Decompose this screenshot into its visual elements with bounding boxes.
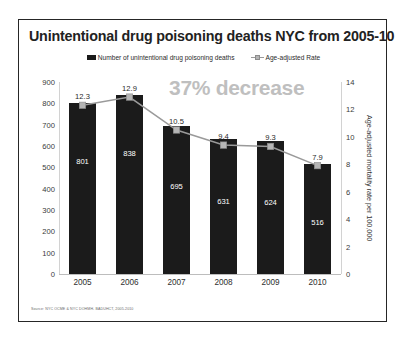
- rate-marker: [220, 142, 226, 148]
- x-tick-label: 2009: [261, 278, 279, 287]
- rate-marker: [79, 102, 85, 108]
- y-tick-left: 600: [21, 142, 55, 151]
- y-axis-right-title: Age-adjusted mortality rate per 100,000: [363, 82, 375, 274]
- rate-marker: [126, 94, 132, 100]
- y-tick-left: 800: [21, 99, 55, 108]
- chart-legend: Number of unintentional drug poisoning d…: [19, 54, 388, 61]
- rate-marker: [173, 127, 179, 133]
- y-axis-right-line: [341, 82, 342, 274]
- source-note: Source: NYC OCME & NYC DOHMH- BADUHCT, 2…: [31, 307, 133, 311]
- legend-label-rate: Age-adjusted Rate: [266, 54, 321, 61]
- x-tick-label: 2010: [308, 278, 326, 287]
- rate-line-series: [59, 82, 341, 274]
- rate-line: [83, 97, 318, 166]
- y-tick-left: 400: [21, 184, 55, 193]
- legend-item-rate[interactable]: Age-adjusted Rate: [251, 54, 321, 61]
- y-tick-left: 200: [21, 227, 55, 236]
- y-axis-left: 9008007006005004003002001000: [19, 82, 55, 274]
- rate-marker: [267, 143, 273, 149]
- x-tick-label: 2005: [73, 278, 91, 287]
- x-tick-label: 2008: [214, 278, 232, 287]
- y-tick-left: 300: [21, 206, 55, 215]
- chart-title: Unintentional drug poisoning deaths NYC …: [29, 28, 379, 44]
- rate-marker: [314, 162, 320, 168]
- legend-line-marker-icon: [251, 55, 264, 60]
- x-tick-label: 2007: [167, 278, 185, 287]
- legend-item-deaths[interactable]: Number of unintentional drug poisoning d…: [87, 54, 235, 61]
- decrease-annotation: 37% decrease: [169, 76, 304, 100]
- legend-label-deaths: Number of unintentional drug poisoning d…: [98, 54, 235, 61]
- chart-frame: Unintentional drug poisoning deaths NYC …: [18, 19, 387, 322]
- y-tick-left: 500: [21, 163, 55, 172]
- y-tick-left: 0: [21, 270, 55, 279]
- x-tick-label: 2006: [120, 278, 138, 287]
- y-tick-left: 100: [21, 248, 55, 257]
- y-tick-left: 900: [21, 78, 55, 87]
- legend-bar-swatch-icon: [87, 55, 96, 61]
- y-tick-left: 700: [21, 120, 55, 129]
